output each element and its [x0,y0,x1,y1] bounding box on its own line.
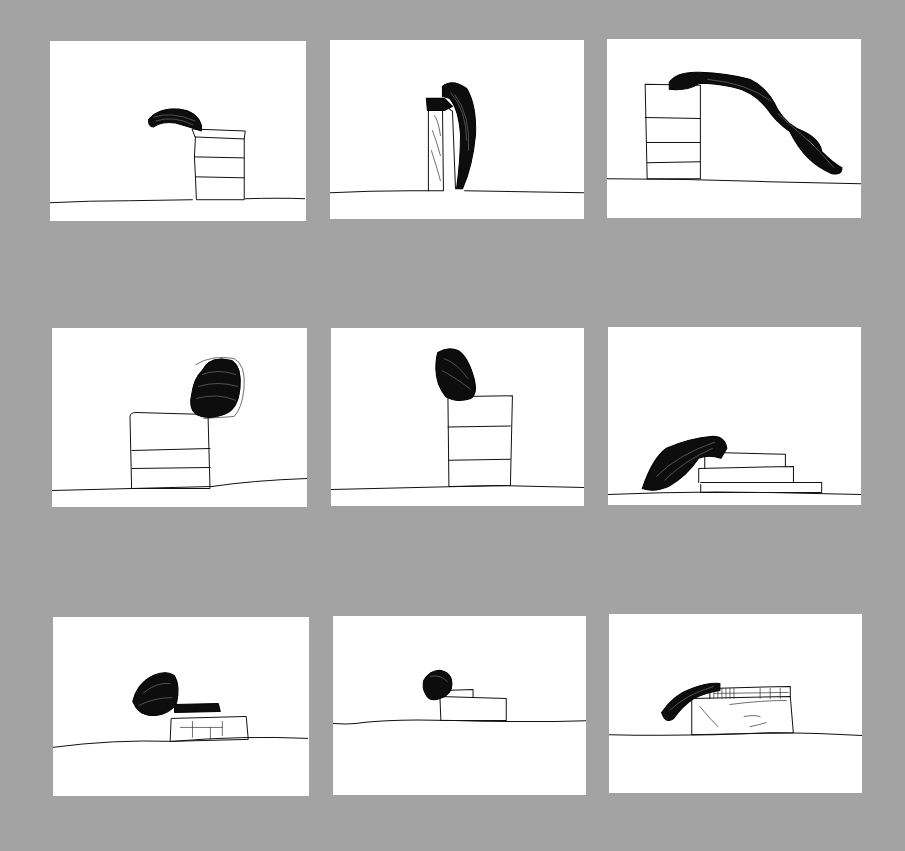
sketch-panel-6 [608,327,861,505]
sketch-sheet [0,0,905,851]
sketch-panel-8 [333,616,586,795]
sketch-panel-1 [50,41,306,221]
sketch-drawing-1 [50,41,305,221]
sketch-panel-5 [331,328,584,506]
sketch-panel-2 [330,40,584,219]
sketch-drawing-8 [333,616,586,795]
sketch-drawing-2 [330,40,584,219]
sketch-drawing-7 [53,617,308,796]
sketch-panel-4 [52,328,307,507]
sketch-drawing-4 [52,328,307,507]
sketch-panel-3 [607,39,861,218]
sketch-drawing-6 [608,327,861,505]
sketch-drawing-3 [607,39,861,218]
sketch-panel-9 [609,614,862,793]
sketch-drawing-9 [609,614,862,793]
sketch-drawing-5 [331,328,584,506]
sketch-panel-7 [53,617,309,796]
